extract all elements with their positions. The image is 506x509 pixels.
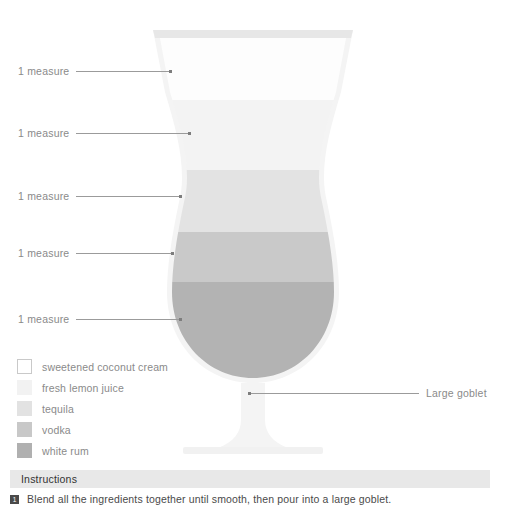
instructions-header: Instructions <box>10 470 490 488</box>
leader-dot <box>179 195 182 198</box>
callout-white-rum: 1 measure <box>18 312 198 326</box>
legend-label: tequila <box>42 403 74 415</box>
leader-line <box>251 393 419 394</box>
instructions-title: Instructions <box>21 473 77 485</box>
glass-rim-band <box>153 30 353 38</box>
leader-line <box>76 71 169 72</box>
legend-label: fresh lemon juice <box>42 382 124 394</box>
legend-swatch <box>17 401 32 416</box>
legend-swatch <box>17 359 32 374</box>
callout-label: 1 measure <box>18 190 69 202</box>
callout-label: 1 measure <box>18 127 69 139</box>
legend-swatch <box>17 380 32 395</box>
leader-dot <box>179 318 182 321</box>
leader-dot <box>169 70 172 73</box>
glass-base <box>183 447 323 454</box>
leader-line <box>76 133 188 134</box>
step-text: Blend all the ingredients together until… <box>27 493 391 505</box>
legend-swatch <box>17 443 32 458</box>
callout-label: Large goblet <box>426 387 487 399</box>
callout-sweetened-coconut-cream: 1 measure <box>18 64 188 78</box>
leader-line <box>76 196 179 197</box>
legend-label: sweetened coconut cream <box>42 361 168 373</box>
legend-item-sweetened-coconut-cream: sweetened coconut cream <box>17 356 168 377</box>
legend-swatch <box>17 422 32 437</box>
callout-tequila: 1 measure <box>18 189 198 203</box>
ingredient-legend: sweetened coconut cream fresh lemon juic… <box>17 356 168 461</box>
legend-label: vodka <box>42 424 71 436</box>
legend-item-vodka: vodka <box>17 419 168 440</box>
callout-large-goblet: Large goblet <box>248 386 487 400</box>
legend-item-white-rum: white rum <box>17 440 168 461</box>
callout-label: 1 measure <box>18 247 69 259</box>
leader-dot <box>171 252 174 255</box>
callout-vodka: 1 measure <box>18 246 190 260</box>
leader-line <box>76 319 179 320</box>
legend-item-fresh-lemon-juice: fresh lemon juice <box>17 377 168 398</box>
legend-item-tequila: tequila <box>17 398 168 419</box>
callout-label: 1 measure <box>18 65 69 77</box>
leader-dot <box>188 132 191 135</box>
legend-label: white rum <box>42 445 89 457</box>
instruction-step-1: 1 Blend all the ingredients together unt… <box>10 493 391 505</box>
callout-label: 1 measure <box>18 313 69 325</box>
step-number-marker: 1 <box>10 495 19 504</box>
callout-fresh-lemon-juice: 1 measure <box>18 126 208 140</box>
leader-line <box>76 253 171 254</box>
